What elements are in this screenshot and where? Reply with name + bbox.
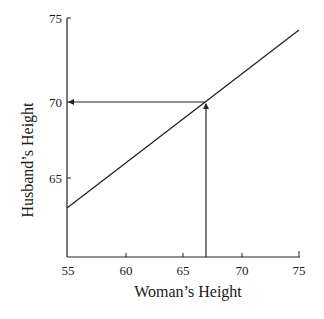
x-tick-label-70: 70 xyxy=(236,263,249,278)
axes xyxy=(67,18,300,257)
y-tick-label-70: 70 xyxy=(49,95,62,110)
x-tick-label-65: 65 xyxy=(177,263,190,278)
x-tick-label-55: 55 xyxy=(62,263,75,278)
x-tick-label-60: 60 xyxy=(120,263,133,278)
y-tick-label-65: 65 xyxy=(49,171,62,186)
y-tick-label-75: 75 xyxy=(49,11,62,26)
chart-canvas: 75 70 65 55 60 65 70 75 Woman’s Height H… xyxy=(0,0,324,319)
y-axis-label: Husband’s Height xyxy=(19,102,37,218)
x-tick-label-75: 75 xyxy=(293,263,306,278)
x-axis-label: Woman’s Height xyxy=(134,283,242,301)
regression-line xyxy=(67,30,299,208)
